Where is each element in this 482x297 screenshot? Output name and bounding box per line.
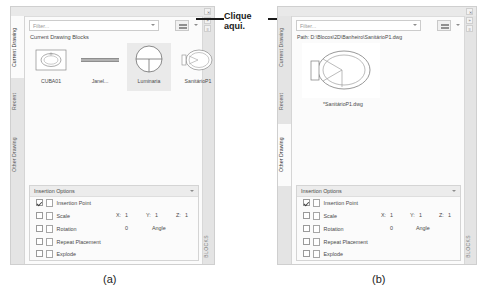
grid-view-icon [179,24,187,29]
checkbox-scale[interactable] [303,212,310,219]
tab-label: Recent [278,92,284,109]
insertion-options-header-b[interactable]: Insertion Options [297,186,460,197]
menu-button-a[interactable]: ≡ [204,25,211,32]
checkbox-explode[interactable] [36,250,43,257]
block-label: SanitárioP1 [175,78,221,84]
checkbox-insertion-point[interactable] [303,199,310,206]
option-explode-a[interactable]: Explode [36,250,76,259]
close-icon: ✕ [207,11,210,15]
preview-file-label: *SanitárioP1.dwg [297,101,389,107]
option-rotation-a[interactable]: Rotation [36,225,77,234]
view-options-button-a[interactable] [175,20,189,31]
close-button-a[interactable]: ✕ [204,8,211,15]
block-item-sanitariop1[interactable]: SanitárioP1 [176,43,220,91]
checkbox-scale[interactable] [36,212,43,219]
rotation-value[interactable]: 0 [125,225,128,231]
view-options-button-b[interactable] [437,20,451,31]
collapse-button-b[interactable]: » [466,17,473,24]
chevron-down-icon-view-a[interactable] [194,24,198,26]
option-rotation-b[interactable]: Rotation [303,225,344,234]
insertion-options-panel-a: Insertion Options Insertion Point Scale … [29,185,199,261]
chevron-down-icon-view-b[interactable] [456,24,460,26]
scale-x-value[interactable]: 1 [125,212,128,218]
scale-y-value[interactable]: 1 [155,212,158,218]
palette-body-a: Filter... Current Drawing Blocks [25,17,202,264]
option-scale-a[interactable]: Scale [36,212,70,221]
option-insertion-point-b[interactable]: Insertion Point [303,199,358,208]
scale-y-label: Y: [146,212,151,218]
window-controls-a: ✕ » ≡ [204,8,213,34]
option-label: Repeat Placement [57,239,101,245]
rotation-icon [313,225,321,233]
sink-block-icon [29,43,73,77]
window-controls-b: ✕ » ≡ [466,8,475,34]
block-item-janela[interactable]: Janel... [78,43,122,91]
insertion-point-icon [313,199,321,207]
checkbox-insertion-point[interactable] [36,199,43,206]
checkbox-rotation[interactable] [303,225,310,232]
chevron-right-icon: » [469,19,471,23]
angle-label: Angle [152,225,166,231]
blocks-palette-b: Current Drawing Recent Other Drawing BLO… [277,6,477,265]
angle-label: Angle [416,225,430,231]
tab-label: Current Drawing [11,27,17,66]
option-repeat-placement-a[interactable]: Repeat Placement [36,238,101,247]
sidebar-item-current-drawing-b[interactable]: Current Drawing [278,16,291,78]
scale-z-value[interactable]: 1 [185,212,188,218]
palette-right-rail-b: BLOCKS [464,16,476,264]
chevron-down-icon[interactable] [413,24,417,26]
chevron-down-icon-insopts-b[interactable] [452,190,456,192]
search-placeholder: Filter... [300,23,316,29]
sidebar-item-recent-b[interactable]: Recent [278,80,291,122]
rotation-icon [46,225,54,233]
callout-label: Clique aqui. [224,11,270,31]
scale-z-label: Z: [176,212,181,218]
rotation-value[interactable]: 0 [390,225,393,231]
checkbox-rotation[interactable] [36,225,43,232]
explode-icon [46,250,54,258]
block-preview-sanitariop1[interactable] [302,43,380,98]
chevron-down-icon[interactable] [151,24,155,26]
option-label: Repeat Placement [324,239,368,245]
search-input-b[interactable]: Filter... [296,20,421,31]
filter-row-b: Filter... [296,20,461,31]
menu-button-b[interactable]: ≡ [466,25,473,32]
block-label: Janel... [77,78,123,84]
blocks-grid-a: CUBA01 Janel... [29,43,199,93]
scale-y-label: Y: [410,212,415,218]
grid-view-icon [441,24,449,29]
block-item-cuba01[interactable]: CUBA01 [29,43,73,91]
block-label: Luminaria [126,78,172,84]
option-repeat-placement-b[interactable]: Repeat Placement [303,238,368,247]
scale-x-value[interactable]: 1 [390,212,393,218]
chevron-down-icon-insopts-a[interactable] [190,190,194,192]
scale-z-value[interactable]: 1 [448,212,451,218]
filter-row-a: Filter... [29,20,199,31]
chevron-right-icon: » [207,19,209,23]
checkbox-repeat-placement[interactable] [303,238,310,245]
checkbox-explode[interactable] [303,250,310,257]
tab-label: Other Drawing [11,138,17,173]
sidebar-item-current-drawing-a[interactable]: Current Drawing [11,16,24,78]
option-label: Explode [324,251,343,257]
toilet-block-icon [176,43,220,77]
blocks-vertical-label: BLOCKS [203,235,214,258]
option-insertion-point-a[interactable]: Insertion Point [36,199,91,208]
tab-label: Current Drawing [278,27,284,66]
close-button-b[interactable]: ✕ [466,8,473,15]
block-item-luminaria[interactable]: Luminaria [127,43,171,91]
scale-y-value[interactable]: 1 [419,212,422,218]
sidebar-item-other-drawing-a[interactable]: Other Drawing [11,124,24,186]
option-explode-b[interactable]: Explode [303,250,343,259]
sidebar-item-other-drawing-b[interactable]: Other Drawing [278,124,291,186]
scale-x-label: X: [116,212,121,218]
option-scale-b[interactable]: Scale [303,212,337,221]
checkbox-repeat-placement[interactable] [36,238,43,245]
search-input-a[interactable]: Filter... [29,20,159,31]
sidebar-item-recent-a[interactable]: Recent [11,80,24,122]
insertion-options-header-a[interactable]: Insertion Options [30,186,198,197]
menu-icon: ≡ [469,28,471,32]
explode-icon [313,250,321,258]
scale-x-label: X: [381,212,386,218]
callout-leader-left [196,18,224,20]
